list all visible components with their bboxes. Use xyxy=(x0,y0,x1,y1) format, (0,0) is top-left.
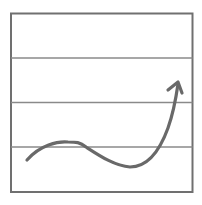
trend-chart-icon xyxy=(0,0,202,205)
arrowhead-icon xyxy=(168,82,182,93)
trend-curve xyxy=(27,84,178,167)
